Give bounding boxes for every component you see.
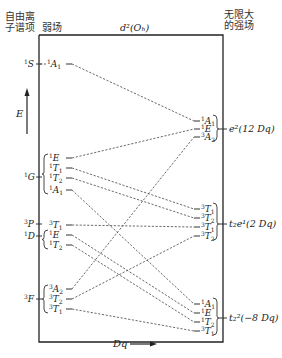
weak-field-states: 1A11E1T11T21A13T11E1T23A23T23T1: [40, 58, 72, 316]
correlation-line: [72, 309, 194, 331]
correlation-diagram: 自由离 子谱项 弱场 d²(Oₕ) 无限大 的强场 E Dq 1S1G3P1D3…: [0, 0, 282, 358]
diagram-frame: [39, 35, 223, 342]
correlation-line: [72, 129, 194, 158]
correlation-line: [72, 235, 194, 313]
weak-brace: [42, 230, 48, 249]
weak-state-w8: 1T2: [49, 239, 63, 252]
correlation-lines: [72, 64, 194, 331]
correlation-line: [72, 236, 194, 299]
free-ion-term-1S: 1S: [24, 58, 34, 70]
strong-field-label-line2: 的强场: [224, 19, 254, 31]
energy-axis-label: E: [15, 108, 24, 119]
weak-brace: [42, 154, 48, 194]
x-axis-label: Dq: [112, 338, 127, 349]
diagram-title: d²(Oₕ): [120, 22, 149, 33]
configuration-label-1: t₂e¹(2 Dq): [229, 218, 277, 229]
configuration-label-2: t₂²(−8 Dq): [229, 312, 279, 323]
strong-field-label-line1: 无限大: [224, 8, 254, 20]
correlation-line: [72, 225, 194, 227]
weak-brace: [42, 285, 48, 313]
weak-state-w5: 1A1: [49, 184, 63, 197]
correlation-line: [72, 64, 194, 121]
free-ion-label-line2: 子谱项: [5, 21, 35, 33]
free-ion-term-3P: 3P: [24, 218, 35, 230]
free-ion-term-3F: 3F: [24, 293, 35, 305]
configuration-label-0: e²(12 Dq): [229, 123, 275, 134]
correlation-line: [72, 190, 194, 304]
free-ion-term-1D: 1D: [24, 230, 35, 242]
correlation-line: [72, 178, 194, 218]
correlation-line: [72, 245, 194, 322]
correlation-line: [72, 137, 194, 289]
strong-field-states: 1A11E3A2e²(12 Dq)3T13T23T13T2t₂e¹(2 Dq)1…: [194, 115, 279, 338]
energy-arrowhead-icon: [25, 88, 30, 96]
weak-field-label: 弱场: [42, 21, 62, 33]
correlation-line: [72, 168, 194, 209]
free-ion-term-1G: 1G: [24, 171, 35, 183]
free-ion-label-line1: 自由离: [5, 10, 35, 22]
weak-state-w1: 1A1: [47, 58, 61, 71]
